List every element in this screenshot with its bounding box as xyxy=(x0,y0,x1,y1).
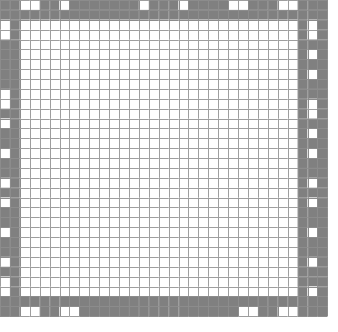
grid-figure xyxy=(0,0,338,332)
cell-grid-canvas xyxy=(0,0,338,332)
